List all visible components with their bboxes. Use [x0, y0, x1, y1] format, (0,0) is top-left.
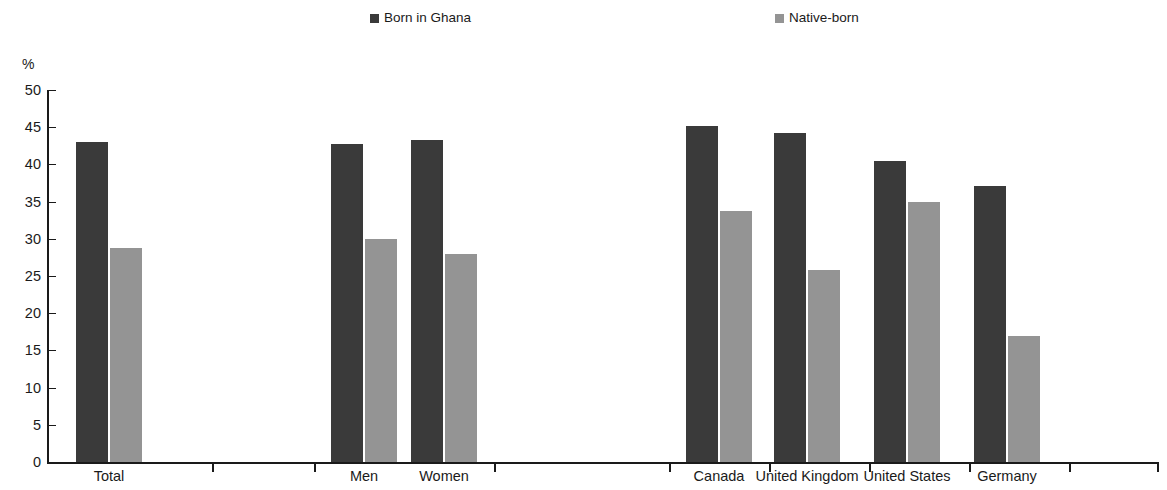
chart-legend: Born in Ghana Native-born: [0, 10, 1167, 34]
x-axis-category-label: Men: [350, 468, 378, 485]
y-axis-tick-label: 15: [7, 343, 41, 357]
y-axis-tick: [49, 90, 56, 91]
y-axis-tick-label: 25: [7, 269, 41, 283]
y-axis-tick: [49, 127, 56, 128]
y-axis-tick: [49, 388, 56, 389]
y-axis-tick-label: 50: [7, 83, 41, 97]
plot-area: 05101520253035404550: [47, 90, 1159, 462]
bar: [110, 248, 142, 462]
y-axis-tick-label: 0: [7, 455, 41, 469]
y-axis-tick: [49, 202, 56, 203]
y-axis-tick-label: 5: [7, 418, 41, 432]
x-axis-tick: [1157, 462, 1159, 472]
x-axis-tick: [494, 462, 496, 472]
x-axis-category-label: Germany: [977, 468, 1037, 485]
bar: [365, 239, 397, 462]
y-axis-tick-label: 10: [7, 381, 41, 395]
bar: [445, 254, 477, 462]
y-axis-tick: [49, 313, 56, 314]
y-axis-tick: [49, 350, 56, 351]
legend-label-native-born: Native-born: [789, 10, 859, 26]
bar: [411, 140, 443, 462]
x-axis-category-label: Total: [94, 468, 125, 485]
bar: [720, 211, 752, 462]
bar: [686, 126, 718, 462]
x-axis-tick: [212, 462, 214, 472]
bar: [774, 133, 806, 462]
y-axis-tick: [49, 239, 56, 240]
x-axis-tick: [969, 462, 971, 472]
x-axis-tick: [314, 462, 316, 472]
y-axis-tick-label: 35: [7, 195, 41, 209]
bar: [874, 161, 906, 462]
bar-chart: Born in Ghana Native-born % 051015202530…: [0, 0, 1167, 490]
y-axis-tick-label: 30: [7, 232, 41, 246]
bar: [974, 186, 1006, 462]
x-axis-tick: [1069, 462, 1071, 472]
y-axis-tick-label: 20: [7, 306, 41, 320]
x-axis-tick: [669, 462, 671, 472]
x-axis-category-label: United States: [863, 468, 950, 485]
y-axis-tick: [49, 462, 56, 463]
bar: [76, 142, 108, 462]
x-axis-category-label: United Kingdom: [755, 468, 858, 485]
legend-item-born-in-ghana: Born in Ghana: [370, 10, 471, 26]
y-axis-unit-label: %: [22, 56, 34, 72]
legend-swatch-native-born: [775, 14, 784, 23]
y-axis-tick: [49, 164, 56, 165]
bar: [808, 270, 840, 462]
legend-item-native-born: Native-born: [775, 10, 859, 26]
y-axis-tick-label: 40: [7, 157, 41, 171]
bar: [331, 144, 363, 462]
x-axis-category-label: Women: [419, 468, 469, 485]
legend-label-born-in-ghana: Born in Ghana: [384, 10, 471, 26]
bar: [908, 202, 940, 462]
y-axis-tick: [49, 425, 56, 426]
legend-swatch-born-in-ghana: [370, 14, 379, 23]
bar: [1008, 336, 1040, 462]
x-axis-category-label: Canada: [694, 468, 745, 485]
y-axis-tick: [49, 276, 56, 277]
y-axis-tick-label: 45: [7, 120, 41, 134]
